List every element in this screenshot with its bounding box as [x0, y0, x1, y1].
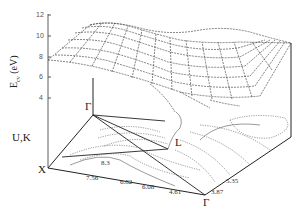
z-tick-4: 4: [39, 94, 43, 101]
contour-6-82: 6.82: [120, 179, 132, 186]
z-tick-10: 10: [36, 32, 44, 39]
contour-3-87: 3.87: [211, 189, 223, 196]
contour-5-35: 5.35: [226, 178, 238, 185]
contour-7-56: 7.56: [86, 175, 98, 182]
label-uk: U,K: [12, 132, 31, 143]
z-label-unit: (eV): [8, 55, 19, 73]
surface-front: [150, 84, 240, 112]
z-tick-6: 6: [39, 73, 43, 80]
contour-4-61: 4.61: [169, 189, 181, 196]
label-gamma-top: Γ: [85, 101, 91, 112]
z-axis: [48, 14, 51, 168]
contour-8-3: 8.3: [101, 160, 110, 167]
label-gamma-bottom: Γ: [203, 197, 209, 208]
label-x: X: [38, 164, 46, 175]
base-box: [48, 43, 291, 195]
surface-plot: [0, 0, 306, 208]
z-axis-label: Ecv (eV): [8, 55, 21, 88]
z-tick-12: 12: [36, 11, 44, 18]
z-tick-8: 8: [39, 53, 43, 60]
z-label-main: E: [8, 82, 19, 88]
z-label-sub: cv: [15, 76, 21, 82]
label-l: L: [175, 137, 182, 148]
contour-6-08: 6.08: [142, 184, 154, 191]
contours: [70, 115, 288, 182]
surface-mesh: [48, 23, 291, 99]
